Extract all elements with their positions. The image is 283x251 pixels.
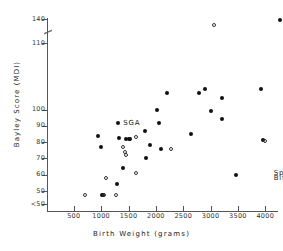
data-point-filled — [148, 143, 152, 147]
y-tick-label-60: 60 — [19, 171, 45, 178]
x-tick-2500 — [183, 206, 184, 211]
x-tick-label-500: 500 — [59, 213, 89, 220]
y-axis-line — [47, 18, 48, 212]
y-axis-title: Bayley Score (MDI) — [13, 39, 21, 169]
data-point-filled — [99, 145, 103, 149]
x-axis-title: Birth Weight (grams) — [0, 230, 283, 238]
y-tick-label-50: 50 — [19, 188, 45, 195]
x-tick-label-3500: 3500 — [223, 213, 253, 220]
x-tick-label-3000: 3000 — [196, 213, 226, 220]
annotation-bifida: Bifida — [274, 174, 283, 183]
data-point-filled — [144, 156, 148, 160]
data-point-filled — [165, 91, 169, 95]
data-point-open — [263, 139, 267, 143]
data-point-filled — [128, 137, 132, 141]
x-tick-label-4000: 4000 — [250, 213, 280, 220]
data-point-open — [121, 145, 125, 149]
data-point-filled — [197, 91, 201, 95]
data-point-open — [134, 135, 138, 139]
data-point-filled — [115, 182, 119, 186]
annotation-sga: SGA — [123, 119, 140, 128]
data-point-filled — [234, 173, 238, 177]
x-tick-3500 — [238, 206, 239, 211]
y-tick-label-lt50: <50 — [19, 201, 45, 208]
data-point-filled — [220, 96, 224, 100]
data-point-open — [114, 193, 118, 197]
data-point-open — [169, 147, 173, 151]
scatter-plot-figure: <505060708090100110140 50010001500200025… — [0, 0, 283, 251]
data-point-filled — [220, 117, 224, 121]
data-point-open — [83, 193, 87, 197]
data-point-open — [102, 193, 106, 197]
x-tick-label-2000: 2000 — [141, 213, 171, 220]
x-tick-4000 — [265, 206, 266, 211]
y-tick-label-110: 110 — [19, 40, 45, 47]
y-tick-label-100: 100 — [19, 106, 45, 113]
data-point-filled — [157, 121, 161, 125]
data-point-open — [124, 153, 128, 157]
data-point-filled — [96, 134, 100, 138]
x-tick-3000 — [211, 206, 212, 211]
data-point-filled — [259, 87, 263, 91]
data-point-open — [212, 23, 216, 27]
data-point-filled — [121, 166, 125, 170]
data-point-open — [134, 171, 138, 175]
y-tick-label-70: 70 — [19, 155, 45, 162]
x-tick-1500 — [129, 206, 130, 211]
x-tick-label-2500: 2500 — [168, 213, 198, 220]
x-tick-label-1000: 1000 — [86, 213, 116, 220]
data-point-filled — [203, 87, 207, 91]
y-tick-label-90: 90 — [19, 122, 45, 129]
data-point-filled — [117, 136, 121, 140]
x-tick-2000 — [156, 206, 157, 211]
x-tick-label-1500: 1500 — [114, 213, 144, 220]
data-point-filled — [116, 121, 120, 125]
y-tick-label-140: 140 — [19, 16, 45, 23]
data-point-filled — [209, 109, 213, 113]
data-point-filled — [189, 132, 193, 136]
y-axis-break-icon — [43, 27, 53, 37]
data-point-filled — [143, 129, 147, 133]
y-tick-label-80: 80 — [19, 139, 45, 146]
data-point-filled — [278, 18, 282, 22]
x-tick-500 — [74, 206, 75, 211]
x-tick-1000 — [101, 206, 102, 211]
data-point-filled — [155, 108, 159, 112]
data-point-filled — [159, 147, 163, 151]
data-point-open — [104, 176, 108, 180]
x-tick-label-4500: 4500 — [278, 213, 283, 220]
